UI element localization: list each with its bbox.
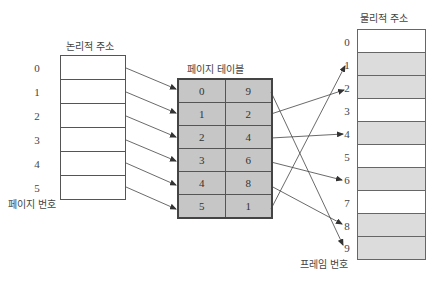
mapping-arrows xyxy=(0,0,436,281)
